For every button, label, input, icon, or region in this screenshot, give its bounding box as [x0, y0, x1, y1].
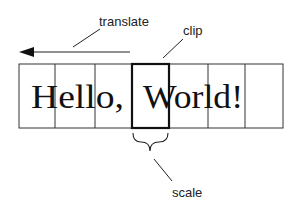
scale-brace-icon	[133, 133, 168, 151]
translate-arrow-icon	[19, 47, 130, 57]
translate-label: translate	[99, 14, 149, 29]
translate-leader-line	[73, 29, 100, 47]
clip-leader-line	[163, 39, 183, 58]
hello-text: Hello,	[31, 79, 124, 115]
scale-leader-line	[154, 159, 172, 181]
diagram-canvas: translate clip Hello, World! scale	[0, 0, 295, 207]
scale-label: scale	[172, 185, 202, 200]
clip-label: clip	[183, 23, 203, 38]
world-text: World!	[143, 79, 243, 115]
